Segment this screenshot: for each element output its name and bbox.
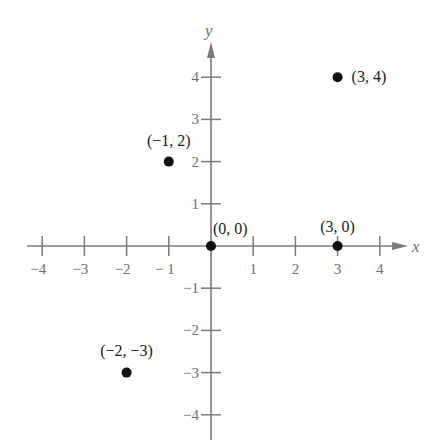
data-point [333, 72, 343, 82]
data-point [122, 368, 132, 378]
data-point [206, 241, 216, 251]
data-points: (3, 4)(−1, 2)(0, 0)(3, 0)(−2, −3) [100, 68, 386, 377]
point-label: (0, 0) [213, 220, 248, 238]
y-tick-label: −1 [183, 280, 199, 296]
x-tick-label: 1 [249, 261, 257, 277]
y-axis-label: y [203, 21, 213, 40]
x-tick-label: 3 [334, 261, 342, 277]
point-label: (3, 4) [352, 68, 387, 86]
x-axis-arrow-icon [392, 242, 408, 250]
point-label: (3, 0) [320, 218, 355, 236]
x-tick-label: −3 [72, 261, 88, 277]
x-tick-label: 4 [376, 261, 384, 277]
x-tick-label: − 1 [155, 261, 175, 277]
y-tick-label: 4 [192, 69, 200, 85]
point-label: (−1, 2) [147, 132, 191, 150]
y-tick-label: −3 [183, 365, 199, 381]
y-tick-label: −4 [183, 407, 199, 423]
y-tick-label: 1 [192, 196, 200, 212]
y-tick-label: 3 [192, 111, 200, 127]
data-point [164, 157, 174, 167]
x-tick-label: −2 [115, 261, 131, 277]
point-label: (−2, −3) [100, 342, 153, 360]
y-tick-label: 2 [192, 154, 200, 170]
data-point [333, 241, 343, 251]
x-tick-label: −4 [30, 261, 46, 277]
y-tick-label: −2 [183, 322, 199, 338]
x-axis-label: x [411, 237, 420, 256]
coordinate-plane: −4−3−2− 11234−4−3−2−11234 x y (3, 4)(−1,… [0, 0, 446, 447]
x-tick-label: 2 [292, 261, 300, 277]
y-axis-arrow-icon [207, 42, 215, 58]
